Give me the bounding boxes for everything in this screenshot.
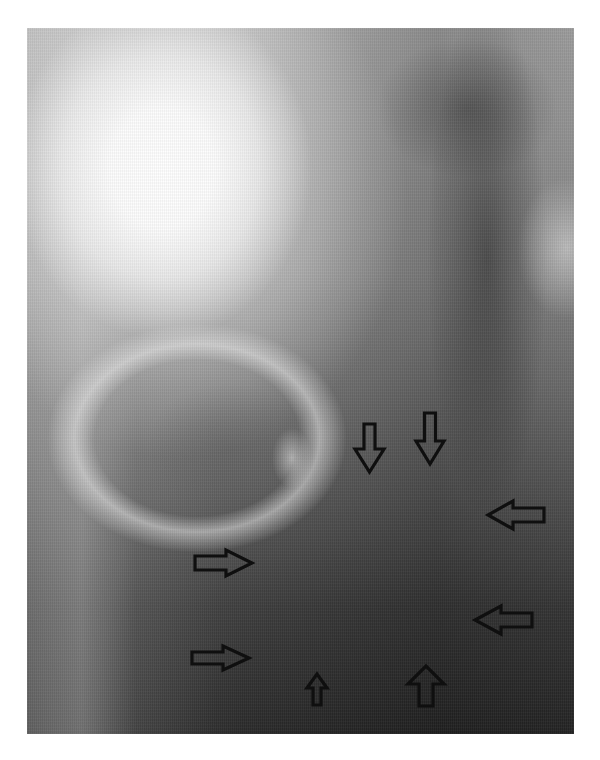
arrow-down-icon — [415, 412, 445, 465]
arrow-left-icon — [474, 605, 533, 635]
arrow-up-icon — [306, 673, 328, 706]
arrow-left-icon — [487, 500, 545, 530]
arrow-right-icon — [191, 645, 250, 671]
arrow-down-icon — [354, 423, 385, 473]
arrow-right-icon — [194, 549, 253, 577]
figure-page — [0, 0, 600, 760]
arrow-up-icon — [407, 665, 445, 707]
